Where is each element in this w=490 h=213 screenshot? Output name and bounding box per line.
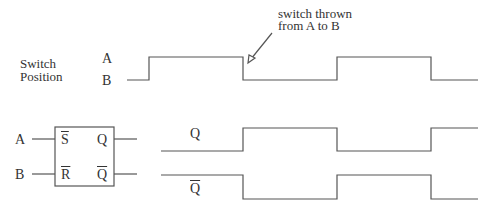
input-a-label: A	[15, 133, 25, 147]
annotation-line2: from A to B	[278, 20, 352, 32]
qbar-waveform-label: Q	[190, 182, 200, 196]
annotation-arrow	[251, 33, 272, 59]
level-a-label: A	[102, 52, 112, 66]
input-b-label: B	[15, 168, 24, 182]
pin-q-bar: Q	[97, 168, 107, 182]
q-waveform-label: Q	[190, 127, 200, 141]
qbar-waveform	[161, 175, 478, 199]
pin-q: Q	[97, 133, 107, 147]
label-line2: Position	[20, 70, 63, 83]
level-b-label: B	[102, 74, 111, 88]
pin-s-bar: S	[61, 133, 69, 147]
timing-diagram	[0, 0, 490, 213]
q-waveform	[161, 128, 478, 151]
switch-waveform	[127, 57, 478, 80]
switch-position-label: Switch Position	[20, 57, 63, 83]
annotation-text: switch thrown from A to B	[278, 8, 352, 32]
pin-r-bar: R	[61, 168, 70, 182]
